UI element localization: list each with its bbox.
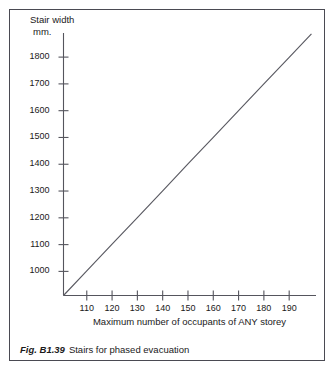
data-series-line: [64, 34, 312, 296]
y-axis-tick-label: 1600: [20, 105, 50, 116]
figure-caption-text: Stairs for phased evacuation: [69, 344, 189, 355]
chart-plot-area: Stair width mm. 100011001200130014001500…: [0, 0, 335, 372]
figure-caption: Fig. B1.39Stairs for phased evacuation: [20, 344, 189, 355]
x-axis-label: Maximum number of occupants of ANY store…: [63, 316, 316, 327]
y-axis-tick-label: 1200: [20, 212, 50, 223]
y-axis-tick-label: 1700: [20, 78, 50, 89]
y-axis-tick-label: 1500: [20, 131, 50, 142]
y-axis-tick-label: 1100: [20, 239, 50, 250]
figure-root: Stair width mm. 100011001200130014001500…: [0, 0, 335, 372]
x-axis-tick-label: 190: [277, 303, 301, 314]
x-axis-tick-label: 110: [75, 303, 99, 314]
x-axis-tick-label: 120: [100, 303, 124, 314]
y-axis-tick-label: 1400: [20, 158, 50, 169]
x-axis-tick-label: 160: [201, 303, 225, 314]
x-axis-tick-label: 180: [252, 303, 276, 314]
y-axis-title-line2: mm.: [30, 26, 74, 38]
y-axis-tick-label: 1300: [20, 185, 50, 196]
y-axis-title-line1: Stair width: [30, 14, 74, 25]
y-axis-title: Stair width mm.: [30, 14, 74, 37]
y-axis-tick-label: 1800: [20, 51, 50, 62]
x-axis-tick-label: 170: [227, 303, 251, 314]
y-axis-tick-label: 1000: [20, 265, 50, 276]
x-axis-tick-label: 140: [151, 303, 175, 314]
x-axis-tick-label: 130: [125, 303, 149, 314]
x-axis-tick-label: 150: [176, 303, 200, 314]
figure-number: Fig. B1.39: [20, 344, 65, 355]
